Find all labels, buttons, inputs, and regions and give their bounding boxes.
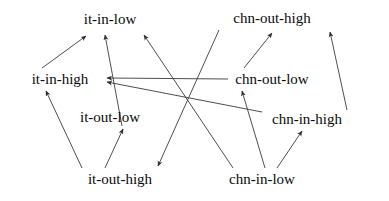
graph-edge bbox=[46, 91, 82, 168]
graph-edge bbox=[144, 35, 233, 168]
graph-edge bbox=[244, 33, 272, 68]
graph-edge bbox=[330, 32, 347, 110]
graph-edge bbox=[105, 129, 123, 168]
graph-edge bbox=[158, 30, 219, 166]
graph-node-chn-in-high: chn-in-high bbox=[272, 112, 342, 127]
graph-edge bbox=[242, 91, 265, 168]
graph-node-it-in-low: it-in-low bbox=[84, 12, 137, 27]
graph-node-chn-in-low: chn-in-low bbox=[229, 172, 295, 187]
graph-node-chn-out-low: chn-out-low bbox=[235, 72, 308, 87]
graph-edge bbox=[277, 131, 302, 168]
graph-node-chn-out-high: chn-out-high bbox=[233, 11, 310, 26]
edge-layer bbox=[0, 0, 389, 201]
graph-diagram: it-in-lowchn-out-highit-in-highchn-out-l… bbox=[0, 0, 389, 201]
edges-group bbox=[42, 30, 347, 168]
graph-edge bbox=[107, 78, 228, 79]
graph-node-it-out-high: it-out-high bbox=[88, 172, 152, 187]
graph-node-it-out-low: it-out-low bbox=[80, 110, 140, 125]
graph-node-it-in-high: it-in-high bbox=[32, 72, 89, 87]
graph-edge bbox=[42, 36, 86, 68]
